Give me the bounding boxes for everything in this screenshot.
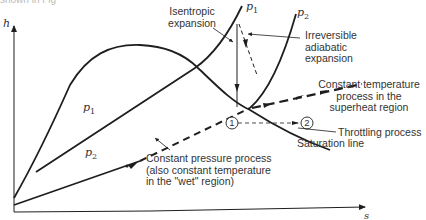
saturation-annotation: Saturation line <box>297 138 364 150</box>
irreversible-annotation: Irreversible adiabatic expansion <box>305 30 357 65</box>
irreversible-leader <box>248 34 300 38</box>
y-axis-label: h <box>3 17 10 30</box>
state-1-label: 1 <box>226 117 238 129</box>
constant-pressure-annotation: Constant pressure process (also constant… <box>146 153 271 188</box>
p2-inner-label: p2 <box>85 146 97 161</box>
constant-temperature-annotation: Constant temperature process in the supe… <box>311 79 426 114</box>
h-s-diagram: shown in Fig <box>0 0 426 220</box>
p1-isobar <box>36 6 242 172</box>
x-axis <box>14 207 365 212</box>
irreversible-line <box>239 24 257 75</box>
constant-pressure-leader <box>155 138 170 150</box>
x-axis-label: s <box>364 210 369 220</box>
p2-isobar-solid <box>14 161 140 205</box>
p2-top-label: p2 <box>297 6 309 21</box>
isentropic-annotation: Isentropic expansion <box>162 6 222 29</box>
throttling-leader <box>298 128 336 132</box>
p1-inner-label: p1 <box>83 101 95 116</box>
p2-isobar-superheat <box>250 14 296 108</box>
p1-top-label: p1 <box>246 0 258 15</box>
state-2-label: 2 <box>301 117 313 129</box>
